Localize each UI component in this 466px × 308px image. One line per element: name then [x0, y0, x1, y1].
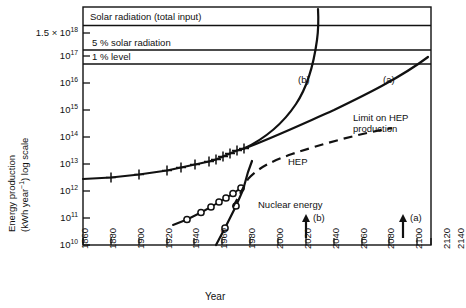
x-tick-label-1860: 1860 [79, 228, 90, 249]
x-tick-label-1940: 1940 [190, 228, 201, 249]
y-tick-label-1.5e18: 1.5 × 1018 [14, 26, 78, 38]
y-tick-label-1e13: 1013 [28, 157, 78, 169]
y-tick-label-1e11: 1011 [28, 211, 78, 223]
curve-label-hep: HEP [288, 156, 308, 167]
series-projection-a [244, 57, 428, 149]
x-tick-label-2120: 2120 [441, 228, 452, 249]
series-total-energy [83, 144, 249, 183]
x-tick-label-2000: 2000 [274, 228, 285, 249]
arrow-marker-a [399, 214, 407, 238]
x-tick-label-1980: 1980 [246, 228, 257, 249]
x-tick-label-1960: 1960 [218, 228, 229, 249]
series-hep [233, 128, 392, 207]
annotation-hep-limit: Limit on HEP production [353, 113, 408, 134]
ref-label-solar-1pct: 1 % level [92, 51, 131, 62]
y-tick-label-1e16: 1016 [28, 76, 78, 88]
y-axis-title-line2: (kWh year−1) log scale [18, 138, 30, 232]
x-tick-label-1920: 1920 [163, 228, 174, 249]
y-tick-label-1e10: 1010 [28, 238, 78, 250]
x-tick-label-2040: 2040 [330, 228, 341, 249]
y-tick-label-1e14: 1014 [28, 130, 78, 142]
y-axis-title-line1: Energy production [6, 155, 17, 232]
x-tick-label-2060: 2060 [358, 228, 369, 249]
arrow-label-b: (b) [313, 212, 325, 223]
ref-label-solar-total: Solar radiation (total input) [90, 11, 201, 22]
x-axis-title: Year [205, 291, 225, 302]
ref-label-solar-5pct: 5 % solar radiation [92, 37, 171, 48]
x-tick-label-2080: 2080 [385, 228, 396, 249]
arrow-label-a: (a) [410, 212, 422, 223]
y-tick-label-1e17: 1017 [28, 49, 78, 61]
x-tick-label-2100: 2100 [413, 228, 424, 249]
curve-label-a: (a) [383, 74, 395, 85]
y-tick-label-1e15: 1015 [28, 103, 78, 115]
x-tick-label-1880: 1880 [107, 228, 118, 249]
y-axis-ticks [83, 33, 90, 245]
x-tick-label-2020: 2020 [302, 228, 313, 249]
x-tick-label-1900: 1900 [135, 228, 146, 249]
y-tick-label-1e12: 1012 [28, 184, 78, 196]
x-tick-label-2140: 2140 [455, 228, 466, 249]
curve-label-b: (b) [298, 74, 310, 85]
curve-label-nuclear: Nuclear energy [258, 199, 322, 210]
